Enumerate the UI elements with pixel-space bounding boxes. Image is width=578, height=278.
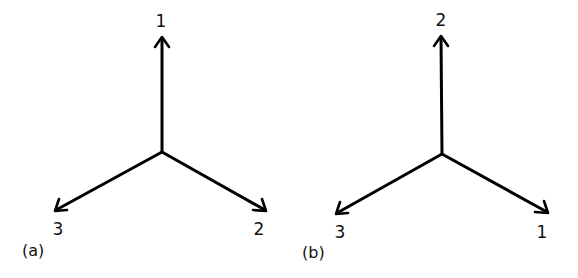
axis-label-lower-left-a: 3 [53, 219, 64, 239]
axis-lower-right-a [162, 152, 266, 211]
axis-up-b [434, 36, 448, 154]
panel-caption-b: (b) [302, 243, 325, 262]
panel-a: 1 2 3 (a) [22, 11, 266, 260]
axis-label-lower-right-a: 2 [254, 219, 265, 239]
axes-diagram: 1 2 3 (a) 2 1 3 (b) [0, 0, 578, 278]
axis-label-up-a: 1 [156, 11, 167, 31]
panel-caption-a: (a) [22, 241, 44, 260]
axis-lower-left-a [55, 152, 162, 211]
axis-label-up-b: 2 [436, 10, 447, 30]
axis-label-lower-right-b: 1 [537, 222, 548, 242]
axis-label-lower-left-b: 3 [335, 222, 346, 242]
axis-lower-right-b [442, 154, 548, 213]
axis-up-a [155, 37, 169, 152]
axis-lower-left-b [336, 154, 442, 214]
panel-b: 2 1 3 (b) [302, 10, 548, 262]
